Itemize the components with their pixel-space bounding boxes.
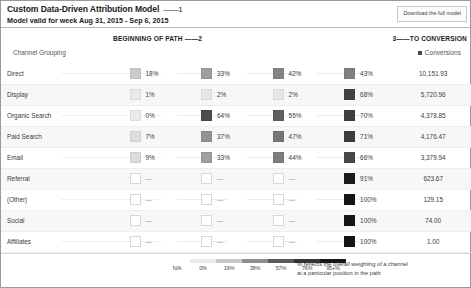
position-2-cell: 37% bbox=[193, 126, 251, 147]
weight-value: 68% bbox=[360, 91, 373, 98]
legend-tick: 38% bbox=[242, 265, 268, 271]
position-4-cell: 100% bbox=[336, 231, 394, 252]
weight-swatch bbox=[344, 89, 355, 100]
connector-cell bbox=[323, 63, 336, 84]
weight-swatch bbox=[273, 89, 284, 100]
connector-cell bbox=[180, 147, 193, 168]
connector-cell bbox=[251, 210, 264, 231]
weight-swatch bbox=[130, 89, 141, 100]
weight-value: 37% bbox=[217, 133, 230, 140]
legend-note: % reflects the overall weighting of a ch… bbox=[297, 260, 408, 278]
weight-swatch bbox=[273, 215, 284, 226]
connector-cell bbox=[323, 147, 336, 168]
legend-swatch bbox=[242, 259, 268, 263]
position-1-cell: — bbox=[122, 231, 180, 252]
channel-grouping-header: Channel Grouping bbox=[13, 49, 66, 56]
connector-cell bbox=[180, 63, 193, 84]
weight-value: 2% bbox=[289, 91, 298, 98]
channel-name-cell: Organic Search bbox=[1, 105, 122, 126]
weight-value: 1% bbox=[146, 91, 155, 98]
weight-swatch bbox=[201, 173, 212, 184]
connector-cell bbox=[180, 105, 193, 126]
position-2-cell: — bbox=[193, 168, 251, 189]
weight-value: 44% bbox=[289, 154, 302, 161]
connector-cell bbox=[323, 168, 336, 189]
legend-note-line-1: % reflects the overall weighting of a ch… bbox=[297, 260, 408, 269]
legend-note-line-2: at a particular position in the path bbox=[297, 269, 408, 278]
weight-value: — bbox=[217, 217, 223, 224]
weight-swatch bbox=[344, 131, 355, 142]
conversions-cell: 74.00 bbox=[394, 210, 471, 231]
connector-cell bbox=[251, 168, 264, 189]
connector-cell bbox=[180, 126, 193, 147]
attribution-table: Direct18%33%42%43%10,151.93Display1%2%2%… bbox=[1, 63, 471, 253]
connector-cell bbox=[251, 84, 264, 105]
weight-swatch bbox=[273, 68, 284, 79]
weight-value: — bbox=[146, 238, 152, 245]
position-4-cell: 66% bbox=[336, 147, 394, 168]
position-2-cell: 64% bbox=[193, 105, 251, 126]
connector-cell bbox=[180, 210, 193, 231]
weight-swatch bbox=[130, 110, 141, 121]
weight-swatch bbox=[201, 236, 212, 247]
weight-swatch bbox=[130, 173, 141, 184]
position-4-cell: 68% bbox=[336, 84, 394, 105]
position-3-cell: 2% bbox=[265, 84, 323, 105]
weight-swatch bbox=[130, 131, 141, 142]
channel-name-cell: Social bbox=[1, 210, 122, 231]
conversions-header: Conversions bbox=[418, 49, 461, 56]
weight-value: 70% bbox=[360, 112, 373, 119]
title-bar: Custom Data-Driven Attribution Model ——1… bbox=[1, 1, 470, 28]
connector-cell bbox=[251, 105, 264, 126]
connector-cell bbox=[323, 105, 336, 126]
position-1-cell: 9% bbox=[122, 147, 180, 168]
page-title: Custom Data-Driven Attribution Model bbox=[7, 4, 159, 14]
weight-swatch bbox=[130, 68, 141, 79]
table-row: Social———100%74.00 bbox=[1, 210, 471, 231]
channel-name-cell: Direct bbox=[1, 63, 122, 84]
weight-value: 42% bbox=[289, 70, 302, 77]
legend-tick: N/A bbox=[164, 265, 190, 271]
weight-swatch bbox=[201, 89, 212, 100]
weight-swatch bbox=[344, 194, 355, 205]
weight-value: 0% bbox=[146, 112, 155, 119]
weight-value: 33% bbox=[217, 70, 230, 77]
legend-swatch bbox=[216, 259, 242, 263]
connector-cell bbox=[180, 231, 193, 252]
annotation-marker-1: ——1 bbox=[163, 5, 182, 14]
weight-value: 47% bbox=[289, 133, 302, 140]
attribution-model-panel: Custom Data-Driven Attribution Model ——1… bbox=[0, 0, 471, 288]
position-4-cell: 100% bbox=[336, 189, 394, 210]
table-row: Affiliates———100%1.00 bbox=[1, 231, 471, 252]
weight-swatch bbox=[130, 194, 141, 205]
weight-value: — bbox=[217, 175, 223, 182]
position-3-cell: — bbox=[265, 210, 323, 231]
connector-cell bbox=[180, 84, 193, 105]
table-row: Paid Search7%37%47%71%4,176.47 bbox=[1, 126, 471, 147]
position-2-cell: — bbox=[193, 210, 251, 231]
weight-value: 66% bbox=[360, 154, 373, 161]
position-4-cell: 100% bbox=[336, 210, 394, 231]
weight-swatch bbox=[273, 194, 284, 205]
position-4-cell: 70% bbox=[336, 105, 394, 126]
position-1-cell: — bbox=[122, 168, 180, 189]
connector-cell bbox=[323, 231, 336, 252]
weight-value: — bbox=[146, 217, 152, 224]
weight-value: 100% bbox=[360, 238, 376, 245]
weight-value: 18% bbox=[146, 70, 159, 77]
weight-swatch bbox=[344, 152, 355, 163]
legend-tick: 19% bbox=[216, 265, 242, 271]
channel-name-cell: Paid Search bbox=[1, 126, 122, 147]
download-full-model-button[interactable]: Download the full model bbox=[397, 6, 467, 22]
weight-swatch bbox=[130, 215, 141, 226]
weight-value: 2% bbox=[217, 91, 226, 98]
weight-value: 9% bbox=[146, 154, 155, 161]
position-3-cell: — bbox=[265, 231, 323, 252]
weight-swatch bbox=[201, 194, 212, 205]
position-1-cell: — bbox=[122, 189, 180, 210]
position-2-cell: 33% bbox=[193, 63, 251, 84]
weight-swatch bbox=[273, 152, 284, 163]
legend-tick: 0% bbox=[190, 265, 216, 271]
weight-value: — bbox=[146, 196, 152, 203]
column-header-row: Channel Grouping Conversions bbox=[1, 49, 470, 62]
